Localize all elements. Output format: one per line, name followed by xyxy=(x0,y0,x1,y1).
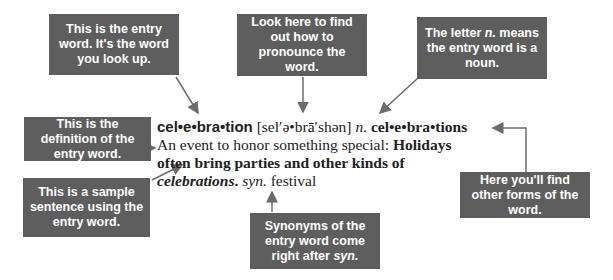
callout-sample-text: This is a sample sentence using the entr… xyxy=(29,185,144,230)
callout-noun: The letter n. means the entry word is a … xyxy=(417,17,547,79)
entry-sample-italic: celebrations xyxy=(157,172,235,189)
entry-part-of-speech: n. xyxy=(355,118,367,135)
callout-synonym-text: Synonyms of the entry word come right af… xyxy=(256,219,374,264)
callout-pronunciation-text: Look here to find out how to pronounce t… xyxy=(243,15,361,75)
arrow-entry-word xyxy=(176,77,198,113)
entry-syn-label: syn. xyxy=(242,172,267,189)
arrow-other-forms xyxy=(493,128,526,172)
entry-plural-form: cel•e•bra•tions xyxy=(371,118,467,135)
entry-definition: An event to honor something special: xyxy=(157,136,389,153)
callout-noun-em: n. xyxy=(485,26,496,40)
callout-entry-word-text: This is the entry word. It's the word yo… xyxy=(55,22,173,67)
callout-noun-pre: The letter xyxy=(425,26,485,40)
entry-headword: cel•e•bra•tion xyxy=(157,118,253,135)
entry-sample-period: . xyxy=(235,172,239,189)
callout-sample: This is a sample sentence using the entr… xyxy=(23,178,150,237)
callout-definition: This is the definition of the entry word… xyxy=(24,117,151,161)
callout-noun-text: The letter n. means the entry word is a … xyxy=(423,26,541,71)
entry-pronunciation: [sel′ə•brā′shən] xyxy=(257,118,352,135)
callout-definition-text: This is the definition of the entry word… xyxy=(30,117,145,162)
entry-synonym: festival xyxy=(271,172,317,189)
callout-synonym-em: syn. xyxy=(333,249,358,263)
callout-entry-word: This is the entry word. It's the word yo… xyxy=(49,14,179,75)
callout-pronunciation: Look here to find out how to pronounce t… xyxy=(237,14,367,76)
arrow-noun xyxy=(380,78,418,113)
dictionary-entry: cel•e•bra•tion [sel′ə•brā′shən] n. cel•e… xyxy=(157,118,487,190)
callout-synonym: Synonyms of the entry word come right af… xyxy=(250,213,380,269)
